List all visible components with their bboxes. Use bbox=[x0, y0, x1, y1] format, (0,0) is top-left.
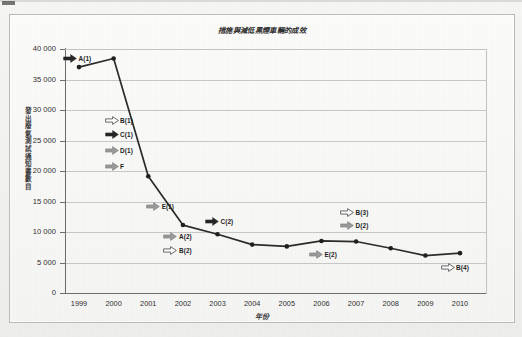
series-line bbox=[79, 59, 460, 256]
annotation-label: D(2) bbox=[356, 222, 369, 229]
arrow-right-icon bbox=[340, 221, 354, 230]
annotation-arrow-b3: B(3) bbox=[340, 208, 368, 217]
x-tick-label: 2010 bbox=[440, 299, 480, 308]
data-point bbox=[388, 246, 393, 251]
annotation-arrow-d2: D(2) bbox=[340, 221, 368, 230]
annotation-label: F bbox=[120, 163, 124, 170]
arrow-right-icon bbox=[163, 232, 177, 241]
annotation-arrow-b1: B(1) bbox=[105, 116, 133, 125]
data-point bbox=[111, 56, 116, 61]
data-point bbox=[458, 251, 463, 256]
y-tick-label: 15 000 bbox=[10, 197, 56, 206]
data-point bbox=[181, 223, 186, 228]
annotation-label: A(2) bbox=[179, 233, 192, 240]
annotation-arrow-c2: C(2) bbox=[205, 217, 233, 226]
annotation-arrow-b2: B(2) bbox=[163, 246, 191, 255]
annotation-arrow-d1: D(1) bbox=[105, 146, 133, 155]
data-point bbox=[285, 244, 290, 249]
y-tick-label: 20 000 bbox=[10, 166, 56, 175]
annotation-arrow-f: F bbox=[105, 162, 125, 171]
data-point bbox=[215, 232, 220, 237]
annotation-arrow-b4: B(4) bbox=[441, 263, 469, 272]
y-tick-label: 30 000 bbox=[10, 105, 56, 114]
plot-area bbox=[65, 49, 487, 294]
annotation-arrow-e2: E(2) bbox=[309, 250, 337, 259]
arrow-right-icon bbox=[205, 217, 219, 226]
annotation-label: B(2) bbox=[179, 247, 192, 254]
x-axis-title: 年份 bbox=[10, 311, 514, 321]
annotation-arrow-a2: A(2) bbox=[163, 232, 191, 241]
scan-corner-artifact bbox=[2, 1, 15, 5]
arrow-right-icon bbox=[340, 208, 354, 217]
annotation-label: B(3) bbox=[356, 209, 369, 216]
annotation-label: C(2) bbox=[221, 218, 234, 225]
y-tick-label: 5 000 bbox=[10, 258, 56, 267]
chart-figure: 措施與減低黑煙車輛的成效 發出廢氣測試通知書數目 05 00010 00015 … bbox=[9, 14, 515, 323]
arrow-right-icon bbox=[105, 130, 119, 139]
annotation-arrow-e1: E(1) bbox=[146, 202, 174, 211]
data-point bbox=[146, 174, 151, 179]
y-tick-label: 35 000 bbox=[10, 75, 56, 84]
arrow-right-icon bbox=[105, 146, 119, 155]
annotation-arrow-c1: C(1) bbox=[105, 130, 133, 139]
data-point bbox=[423, 253, 428, 258]
arrow-right-icon bbox=[63, 54, 77, 63]
y-tick-label: 0 bbox=[10, 288, 56, 297]
annotation-label: E(1) bbox=[162, 203, 174, 210]
y-tick-label: 25 000 bbox=[10, 136, 56, 145]
annotation-label: B(4) bbox=[456, 264, 469, 271]
y-tick-label: 40 000 bbox=[10, 44, 56, 53]
annotation-label: B(1) bbox=[120, 117, 133, 124]
series-smoky-vehicle-notices bbox=[65, 50, 486, 294]
annotation-label: D(1) bbox=[120, 147, 133, 154]
arrow-right-icon bbox=[441, 263, 455, 272]
y-axis-title: 發出廢氣測試通知書數目 bbox=[22, 107, 33, 191]
chart-title: 措施與減低黑煙車輛的成效 bbox=[10, 25, 514, 35]
arrow-right-icon bbox=[105, 116, 119, 125]
data-point bbox=[77, 65, 82, 70]
annotation-arrow-a1: A(1) bbox=[63, 54, 91, 63]
data-point bbox=[354, 239, 359, 244]
arrow-right-icon bbox=[146, 202, 160, 211]
annotation-label: A(1) bbox=[79, 55, 92, 62]
data-point bbox=[319, 239, 324, 244]
annotation-label: E(2) bbox=[324, 251, 336, 258]
arrow-right-icon bbox=[163, 246, 177, 255]
scan-edge-artifact bbox=[0, 0, 522, 2]
arrow-right-icon bbox=[309, 250, 323, 259]
arrow-right-icon bbox=[105, 162, 119, 171]
data-point bbox=[250, 242, 255, 247]
series-markers bbox=[77, 56, 463, 258]
annotation-label: C(1) bbox=[120, 131, 133, 138]
y-tick-label: 10 000 bbox=[10, 227, 56, 236]
